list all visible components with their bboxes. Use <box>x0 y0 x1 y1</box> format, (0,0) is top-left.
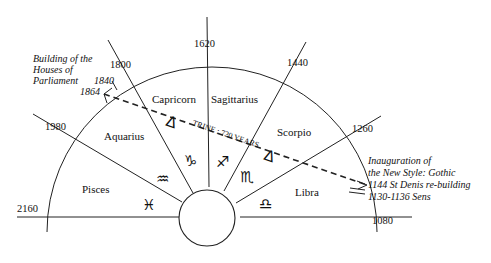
year-label-1980: 1980 <box>45 121 66 132</box>
trine-aspect-icon-right: Δ <box>262 146 278 167</box>
year-label-1080: 1080 <box>372 215 393 226</box>
year-label-1620: 1620 <box>194 38 215 49</box>
year-label-1260: 1260 <box>352 123 373 134</box>
trine-label: TRINE : 720 YEARS <box>191 118 260 149</box>
sign-name-sagittarius: Sagittarius <box>211 93 258 105</box>
annotation-left-line-3: Parliament <box>32 75 78 86</box>
annotation-left-line-1: Building of the <box>33 53 93 64</box>
year-label-2160: 2160 <box>17 203 38 214</box>
annotation-right-line-3: 1144 St Denis re-building <box>368 179 471 190</box>
year-label-1440: 1440 <box>287 57 308 68</box>
annotation-right-line-4: 1130-1136 Sens <box>368 191 431 202</box>
sign-name-capricorn: Capricorn <box>152 93 196 105</box>
trine-arrow-right <box>357 181 367 189</box>
annotation-left-year-1840: 1840 <box>94 75 114 86</box>
pisces-icon: ♓ <box>142 196 155 214</box>
sign-name-libra: Libra <box>295 186 319 198</box>
sagittarius-icon: ♐ <box>216 153 229 171</box>
aquarius-icon: ♒ <box>156 170 169 188</box>
libra-icon: ♎ <box>259 195 272 213</box>
center-circle <box>179 190 235 246</box>
annotation-left-year-1864: 1864 <box>80 86 100 97</box>
year-label-1800: 1800 <box>110 59 131 70</box>
annotation-right-line-2: the New Style: Gothic <box>368 167 456 178</box>
sign-name-scorpio: Scorpio <box>277 126 312 138</box>
sign-name-pisces: Pisces <box>82 183 110 195</box>
sign-name-aquarius: Aquarius <box>104 130 144 142</box>
annotation-right-line-1: Inauguration of <box>367 155 432 166</box>
scorpio-icon: ♏ <box>240 168 254 186</box>
trine-marker-1130 <box>349 188 365 194</box>
capricorn-icon: ♑ <box>184 152 197 170</box>
annotation-left-line-2: Houses of <box>32 64 74 75</box>
zodiac-trine-diagram: 2160 1980 1800 1620 1440 1260 1080 Pisce… <box>0 0 491 263</box>
